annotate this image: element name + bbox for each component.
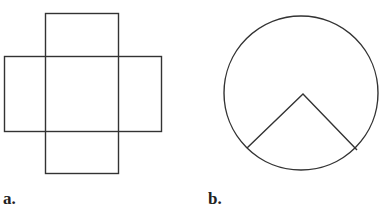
circle-figure	[224, 16, 378, 170]
cross-figure	[5, 14, 162, 174]
sector-radii	[247, 94, 357, 150]
figure-label-a: a.	[3, 190, 16, 207]
cross-horizontal-bar	[5, 57, 162, 132]
figure-canvas	[0, 0, 379, 210]
figure-label-b: b.	[208, 190, 222, 207]
cross-vertical-bar	[46, 14, 119, 174]
